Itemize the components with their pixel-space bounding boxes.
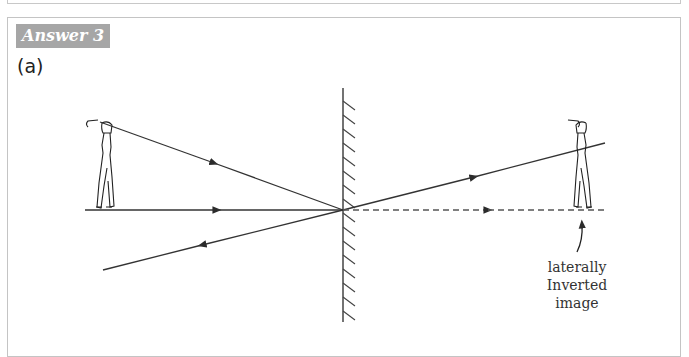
golfer-object-icon (87, 120, 115, 208)
plane-mirror (343, 88, 355, 322)
caption-line-2: Inverted (527, 276, 627, 294)
caption-line-1: laterally (527, 258, 627, 276)
golfer-image-icon (568, 120, 592, 208)
image-caption: laterally Inverted image (527, 258, 627, 312)
pointer-arrow (577, 224, 582, 252)
caption-line-3: image (527, 294, 627, 312)
